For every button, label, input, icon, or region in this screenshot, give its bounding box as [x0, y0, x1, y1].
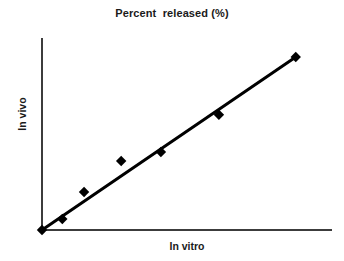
chart-figure: Percent released (%) In vivo In vitro — [0, 0, 344, 261]
data-point-marker — [79, 187, 89, 197]
data-point-marker — [116, 156, 126, 166]
regression-line — [42, 57, 296, 230]
plot-area — [0, 0, 344, 261]
data-point-marker — [156, 147, 166, 157]
fit-line — [42, 57, 296, 230]
